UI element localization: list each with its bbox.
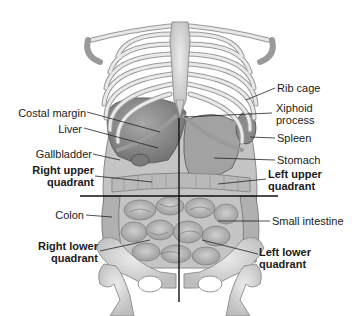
label-small-intestine: Small intestine	[272, 215, 344, 227]
label-rib-cage: Rib cage	[277, 82, 320, 94]
label-gallbladder: Gallbladder	[18, 148, 92, 160]
anatomy-diagram: Costal margin Liver Gallbladder Right up…	[0, 0, 360, 316]
label-right-lower-quadrant: Right lower quadrant	[14, 240, 98, 264]
label-left-lower-quadrant: Left lower quadrant	[259, 246, 311, 270]
gallbladder-organ	[131, 154, 149, 166]
label-liver: Liver	[24, 123, 82, 135]
label-right-upper-quadrant: Right upper quadrant	[14, 164, 94, 188]
label-costal-margin: Costal margin	[14, 107, 86, 119]
label-colon: Colon	[30, 209, 84, 221]
label-xiphoid-process: Xiphoid process	[276, 102, 315, 126]
label-stomach: Stomach	[277, 154, 320, 166]
label-spleen: Spleen	[277, 132, 311, 144]
label-left-upper-quadrant: Left upper quadrant	[268, 168, 322, 192]
